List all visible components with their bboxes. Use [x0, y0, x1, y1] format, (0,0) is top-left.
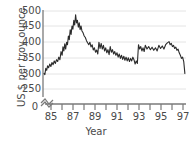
x-tick-label-89: 89 — [87, 112, 103, 122]
x-axis-ticks — [51, 104, 183, 110]
x-tick-label-93: 93 — [131, 112, 147, 122]
x-tick-label-95: 95 — [153, 112, 169, 122]
gold-price-line — [44, 15, 185, 75]
x-tick-label-87: 87 — [65, 112, 81, 122]
x-tick-label-91: 91 — [109, 112, 125, 122]
x-axis-title: Year — [0, 126, 192, 137]
x-tick-label-97: 97 — [175, 112, 191, 122]
x-tick-label-85: 85 — [43, 112, 59, 122]
gold-price-chart: US $ per troy ounce 500 450 400 350 300 … — [0, 0, 192, 141]
